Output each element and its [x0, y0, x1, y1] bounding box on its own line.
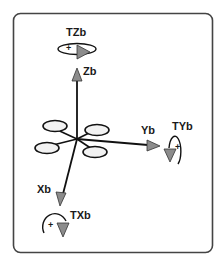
rotor-rear-left-icon: [35, 143, 59, 154]
xb-label: Xb: [37, 183, 51, 195]
tyb-torque: TYb +: [164, 120, 193, 164]
zb-arrowhead-icon: [72, 68, 82, 81]
txb-arrowhead-icon: [57, 223, 69, 237]
tzb-label: TZb: [66, 26, 86, 38]
rotor-front-left-icon: [43, 121, 67, 132]
yb-label: Yb: [141, 124, 155, 136]
body-frame-diagram: Zb TZb + Yb TYb + Xb + TXb: [0, 0, 224, 265]
tzb-torque: TZb +: [58, 26, 96, 59]
tzb-sign: +: [66, 43, 71, 53]
yb-arrowhead-icon: [147, 140, 160, 151]
txb-sign: +: [48, 220, 53, 230]
rotor-rear-right-icon: [83, 147, 107, 158]
quadcopter-icon: [35, 121, 109, 158]
tyb-label: TYb: [172, 120, 193, 132]
tzb-arrowhead-icon: [77, 45, 90, 59]
tyb-sign: +: [175, 142, 180, 152]
xb-arrowhead-icon: [56, 192, 66, 206]
diagram-frame: [14, 14, 213, 253]
txb-torque: + TXb: [43, 209, 91, 237]
txb-label: TXb: [70, 209, 91, 221]
zb-label: Zb: [83, 65, 97, 77]
rotor-front-right-icon: [85, 125, 109, 136]
